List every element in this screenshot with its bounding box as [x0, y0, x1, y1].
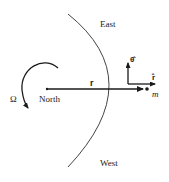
mass-label: m	[152, 89, 159, 99]
mass-dot	[145, 87, 149, 91]
r-hat-label: r̂	[151, 73, 155, 82]
theta-hat-label: θ̂	[130, 55, 136, 64]
east-label: East	[100, 19, 116, 29]
earth-surface-arc	[68, 14, 109, 167]
rotating-earth-diagram: East West North Ω r θ̂ r̂ m	[0, 0, 169, 182]
omega-label: Ω	[10, 94, 17, 104]
r-vector-label: r	[90, 78, 94, 88]
north-label: North	[39, 94, 60, 104]
west-label: West	[100, 158, 118, 168]
